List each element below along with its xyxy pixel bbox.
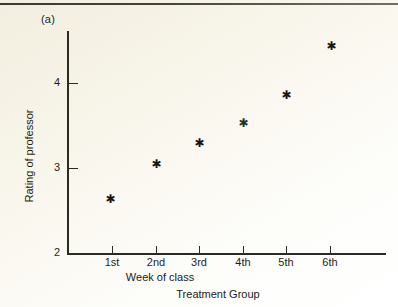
figure-panel: (a) 4 3 2 1st 2nd 3rd 4th 5th 6th Rating… — [0, 0, 398, 307]
x-axis-tick-1st — [112, 246, 113, 254]
y-axis-tick-label-3: 3 — [38, 161, 60, 173]
y-axis-line — [67, 31, 69, 255]
data-point-4th: ✱ — [239, 119, 248, 128]
data-point-6th: ✱ — [327, 42, 336, 51]
data-point-1st: ✱ — [106, 195, 115, 204]
x-axis-tick-label-1st: 1st — [92, 256, 132, 268]
x-axis-tick-6th — [330, 246, 331, 254]
x-axis-tick-label-6th: 6th — [310, 256, 350, 268]
x-axis-tick-3rd — [199, 246, 200, 254]
y-axis-title: Rating of professor — [23, 91, 35, 221]
page-edge-rule — [0, 3, 398, 5]
y-axis-tick-label-2: 2 — [38, 246, 60, 258]
x-axis-title: Week of class — [100, 271, 220, 283]
data-point-3rd: ✱ — [195, 139, 204, 148]
x-axis-tick-2nd — [156, 246, 157, 254]
y-axis-tick-3 — [69, 168, 78, 169]
x-axis-tick-4th — [243, 246, 244, 254]
x-axis-tick-label-5th: 5th — [266, 256, 306, 268]
data-point-5th: ✱ — [282, 91, 291, 100]
panel-label: (a) — [41, 13, 55, 25]
data-point-2nd: ✱ — [152, 160, 161, 169]
treatment-group-label: Treatment Group — [158, 288, 278, 300]
x-axis-tick-label-3rd: 3rd — [179, 256, 219, 268]
x-axis-tick-label-2nd: 2nd — [136, 256, 176, 268]
y-axis-tick-label-4: 4 — [38, 76, 60, 88]
x-axis-tick-5th — [286, 246, 287, 254]
y-axis-tick-4 — [69, 83, 78, 84]
x-axis-line — [67, 253, 386, 255]
x-axis-tick-label-4th: 4th — [223, 256, 263, 268]
